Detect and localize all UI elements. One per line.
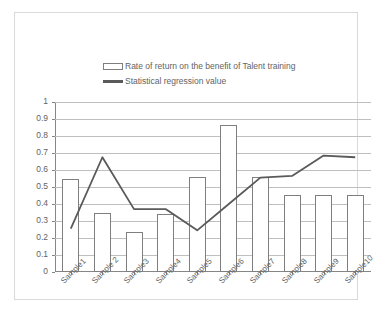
y-axis-tick-label: 0.2	[36, 233, 48, 242]
y-axis-tick-mark	[52, 136, 55, 137]
chart-frame: Rate of return on the benefit of Talent …	[14, 12, 358, 300]
legend-line-swatch-icon	[103, 80, 123, 83]
y-axis-tick-mark	[52, 204, 55, 205]
chart-screenshot: Rate of return on the benefit of Talent …	[0, 0, 374, 313]
y-axis-tick-mark	[52, 221, 55, 222]
plot-area	[55, 102, 371, 272]
y-axis-tick-mark	[52, 272, 55, 273]
legend-label-rate-of-return: Rate of return on the benefit of Talent …	[125, 61, 295, 71]
y-axis-tick-label: 1	[43, 97, 48, 106]
regression-line-series	[55, 102, 371, 272]
y-axis-tick-mark	[52, 187, 55, 188]
y-axis-tick-label: 0.4	[36, 199, 48, 208]
y-axis-tick-label: 0.1	[36, 250, 48, 259]
y-axis-tick-mark	[52, 119, 55, 120]
y-axis-tick-mark	[52, 238, 55, 239]
legend-label-regression: Statistical regression value	[125, 76, 226, 86]
y-axis-tick-label: 0.8	[36, 131, 48, 140]
legend-bar-swatch-icon	[103, 63, 123, 70]
y-axis-tick-label: 0.9	[36, 114, 48, 123]
y-axis-tick-label: 0.3	[36, 216, 48, 225]
y-axis-tick-label: 0.7	[36, 148, 48, 157]
chart-legend: Rate of return on the benefit of Talent …	[103, 60, 363, 90]
y-axis-tick-label: 0.5	[36, 182, 48, 191]
y-axis-tick-mark	[52, 102, 55, 103]
y-axis-tick-labels: 10.90.80.70.60.50.40.30.20.10	[15, 102, 48, 272]
legend-item-rate-of-return[interactable]: Rate of return on the benefit of Talent …	[103, 60, 295, 72]
y-axis-tick-mark	[52, 170, 55, 171]
y-axis-tick-label: 0	[43, 267, 48, 276]
legend-item-regression[interactable]: Statistical regression value	[103, 75, 226, 87]
y-axis-tick-label: 0.6	[36, 165, 48, 174]
regression-line	[71, 156, 355, 231]
y-axis-tick-mark	[52, 153, 55, 154]
y-axis-tick-mark	[52, 255, 55, 256]
